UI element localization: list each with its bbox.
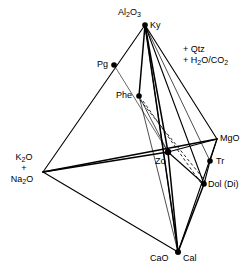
point-label-phe: Phe <box>116 90 132 100</box>
k2o-prefix: K <box>16 152 22 162</box>
fluid-sub2: 2 <box>224 59 228 66</box>
marker-ky <box>142 22 148 28</box>
marker-zo <box>165 149 171 155</box>
vertex-label-al2o3: Al2O3 <box>118 7 141 17</box>
tieline-zo-mgo <box>168 139 217 152</box>
vertex-label-k2o: K2O <box>6 152 42 162</box>
point-label-zo: Zo <box>155 156 166 166</box>
conditions-fluid: + H2O/CO2 <box>183 55 228 65</box>
al2o3-sub2: 3 <box>137 11 141 18</box>
k2o-sub: 2 <box>22 156 26 163</box>
marker-cal <box>175 249 181 255</box>
tieline-left-zo <box>43 152 168 172</box>
fluid-sub1: 2 <box>197 59 201 66</box>
conditions-qtz: + Qtz <box>183 44 205 54</box>
al2o3-sub1: 2 <box>126 11 130 18</box>
vertex-label-na2o: Na2O <box>2 174 42 184</box>
diagram-lines <box>0 0 251 272</box>
na2o-sub: 2 <box>22 178 26 185</box>
point-label-pg: Pg <box>97 59 108 69</box>
na2o-prefix: Na <box>11 174 23 184</box>
fluid-mid: O/CO <box>201 55 224 65</box>
marker-dol <box>201 181 207 187</box>
fluid-prefix: + H <box>183 55 197 65</box>
marker-pg <box>111 62 117 68</box>
tieline-zo-cal <box>168 152 178 252</box>
na2o-suffix: O <box>26 174 33 184</box>
mineral-label-cal: Cal <box>183 253 197 263</box>
tieline-dol-cal <box>178 184 204 252</box>
vertex-label-cao: CaO <box>150 253 169 263</box>
al2o3-prefix: Al <box>118 7 126 17</box>
marker-phe <box>136 93 142 99</box>
tieline-ky-phe <box>139 25 145 96</box>
point-label-tr: Tr <box>216 156 224 166</box>
k2o-suffix: O <box>25 152 32 162</box>
marker-tr <box>207 158 213 164</box>
edge-left-right <box>43 139 217 172</box>
vertex-label-plus: + <box>6 163 42 173</box>
edge-left-bottom <box>43 172 178 252</box>
vertex-label-mgo: MgO <box>220 133 240 143</box>
point-label-dol: Dol (Di) <box>208 179 239 189</box>
mineral-label-ky: Ky <box>150 20 161 30</box>
phase-diagram: Al2O3 Ky + Qtz + H2O/CO2 K2O + Na2O MgO … <box>0 0 251 272</box>
al2o3-mid: O <box>130 7 137 17</box>
